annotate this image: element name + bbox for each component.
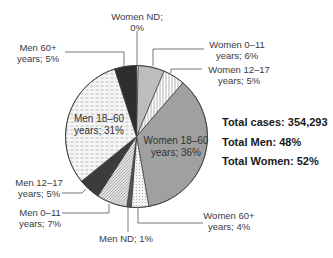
leader-line-women-12-17: [171, 69, 202, 73]
label-women-18-60-1: Women 18–60: [144, 135, 209, 146]
leader-line-men-12-17: [62, 189, 86, 193]
label-men-12-17-1: Men 12–17: [15, 177, 63, 188]
label-women-12-17-2: years; 5%: [218, 75, 261, 86]
label-men-12-17-2: years; 5%: [18, 188, 61, 199]
leader-line-women-0-11: [153, 49, 204, 66]
label-women-18-60-2: years; 36%: [151, 147, 201, 158]
label-women-0-11-1: Women 0–11: [209, 39, 265, 50]
total-women: Total Women: 52%: [222, 152, 328, 172]
label-women-60plus-1: Women 60+: [203, 210, 255, 221]
label-women-12-17-1: Women 12–17: [208, 64, 270, 75]
label-men-18-60-2: years; 31%: [74, 125, 124, 136]
label-women-0-11-2: years; 6%: [216, 50, 259, 61]
label-men-0-11-1: Men 0–11: [19, 207, 61, 218]
leader-line-men-60plus: [65, 52, 124, 66]
total-men: Total Men: 48%: [222, 133, 328, 153]
label-women-nd-2: 0%: [130, 22, 144, 33]
label-men-0-11-2: years; 7%: [19, 218, 62, 229]
label-women-nd-1: Women ND;: [111, 11, 163, 22]
leader-line-women-60plus: [138, 208, 203, 223]
totals-panel: Total cases: 354,293 Total Men: 48% Tota…: [222, 113, 328, 172]
label-men-18-60-1: Men 18–60: [74, 113, 124, 124]
total-cases: Total cases: 354,293: [222, 113, 328, 133]
label-men-60plus-2: years; 5%: [17, 53, 60, 64]
label-men-60plus-1: Men 60+: [19, 42, 57, 53]
label-women-60plus-2: years; 4%: [208, 221, 251, 232]
leader-line-men-0-11: [62, 204, 109, 213]
label-men-nd: Men ND; 1%: [99, 233, 153, 244]
